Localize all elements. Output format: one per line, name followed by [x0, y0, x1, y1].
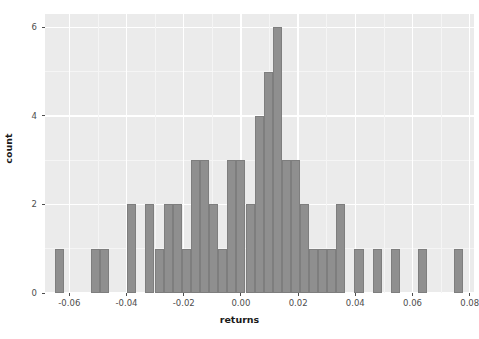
histogram-bar — [300, 204, 309, 293]
x-axis-tick-label: 0.00 — [231, 298, 250, 308]
y-axis-title: count — [3, 119, 14, 179]
y-axis-tick — [42, 27, 45, 28]
x-axis-tick — [183, 293, 184, 296]
x-axis-tick-label: 0.02 — [289, 298, 308, 308]
y-axis-tick — [42, 204, 45, 205]
histogram-bar — [155, 249, 164, 293]
histogram-bar — [100, 249, 109, 293]
bar-series — [45, 14, 474, 293]
histogram-bar — [145, 204, 154, 293]
x-axis-tick — [298, 293, 299, 296]
histogram-bar — [246, 204, 255, 293]
x-axis-tick — [469, 293, 470, 296]
x-axis-title: returns — [0, 314, 479, 325]
histogram-bar — [264, 72, 273, 293]
histogram-bar — [327, 249, 336, 293]
histogram-bar — [200, 160, 209, 293]
x-axis-tick-label: 0.04 — [346, 298, 365, 308]
histogram-bar — [282, 160, 291, 293]
histogram-bar — [454, 249, 463, 293]
histogram-bar — [182, 249, 191, 293]
x-axis-tick — [126, 293, 127, 296]
histogram-bar — [373, 249, 382, 293]
histogram-bar — [173, 204, 182, 293]
y-axis-tick-label: 0 — [17, 288, 37, 298]
x-axis-tick — [355, 293, 356, 296]
histogram-bar — [127, 204, 136, 293]
y-axis-tick — [42, 293, 45, 294]
histogram-bar — [291, 160, 300, 293]
histogram-bar — [209, 204, 218, 293]
x-axis-tick — [240, 293, 241, 296]
y-axis-tick-label: 2 — [17, 199, 37, 209]
histogram-bar — [318, 249, 327, 293]
y-axis-tick — [42, 115, 45, 116]
y-axis-tick-label: 4 — [17, 111, 37, 121]
histogram-bar — [236, 160, 245, 293]
x-axis-tick — [412, 293, 413, 296]
x-axis-tick-label: -0.04 — [116, 298, 138, 308]
histogram-bar — [191, 160, 200, 293]
histogram-bar — [55, 249, 64, 293]
histogram-chart: -0.06-0.04-0.020.000.020.040.060.08 0246… — [0, 0, 479, 339]
histogram-bar — [164, 204, 173, 293]
histogram-bar — [354, 249, 363, 293]
histogram-bar — [309, 249, 318, 293]
histogram-bar — [273, 27, 282, 293]
histogram-bar — [336, 204, 345, 293]
x-axis-tick-label: 0.06 — [403, 298, 422, 308]
histogram-bar — [218, 249, 227, 293]
histogram-bar — [227, 160, 236, 293]
y-axis-tick-label: 6 — [17, 22, 37, 32]
x-axis-tick-label: -0.02 — [173, 298, 195, 308]
histogram-bar — [91, 249, 100, 293]
histogram-bar — [255, 116, 264, 293]
x-axis-tick-label: 0.08 — [460, 298, 479, 308]
histogram-bar — [418, 249, 427, 293]
x-axis-tick — [69, 293, 70, 296]
x-axis-tick-label: -0.06 — [58, 298, 80, 308]
plot-panel — [45, 14, 474, 293]
histogram-bar — [391, 249, 400, 293]
